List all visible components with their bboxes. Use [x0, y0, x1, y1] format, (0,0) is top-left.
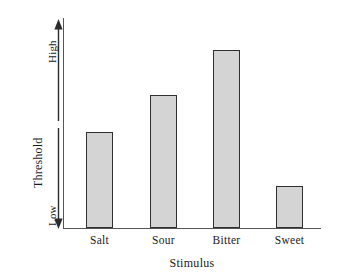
bar-chart-figure: High Low Threshold Salt Sour Bitter Swee…: [0, 0, 345, 280]
arrow-up-icon: [53, 19, 64, 121]
y-axis-low-label: Low: [46, 205, 58, 226]
x-tick-label-sour: Sour: [129, 234, 199, 246]
bar-sweet: [276, 186, 303, 228]
x-tick-label-salt: Salt: [65, 234, 135, 246]
y-axis-title: Threshold: [31, 138, 46, 188]
bar-bitter: [213, 50, 240, 228]
x-tick-label-bitter: Bitter: [192, 234, 262, 246]
bar-sour: [150, 95, 177, 228]
y-axis-high-label: High: [46, 40, 58, 63]
bar-salt: [86, 132, 113, 228]
x-axis-line: [63, 228, 321, 229]
x-tick-label-sweet: Sweet: [255, 234, 325, 246]
x-axis-title: Stimulus: [63, 256, 321, 271]
